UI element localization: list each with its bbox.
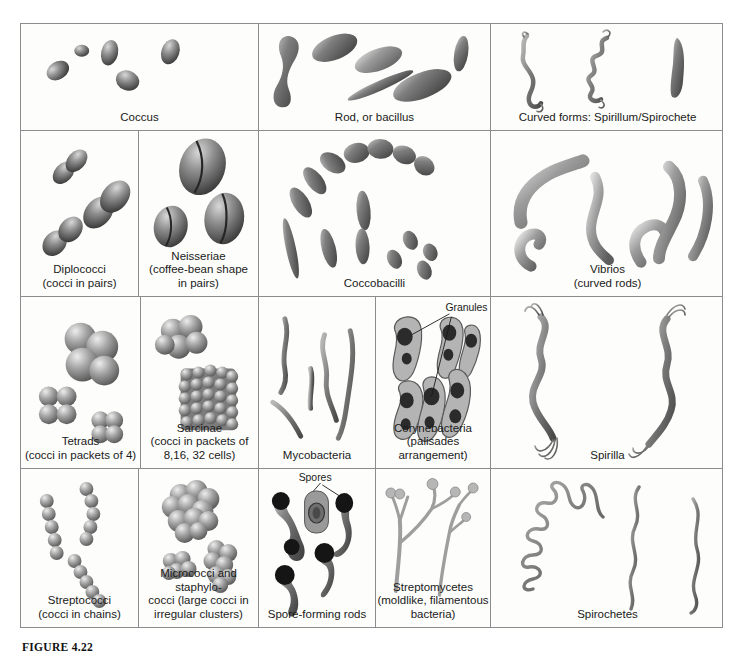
- cell-streptococci: Streptococci (cocci in chains): [21, 469, 139, 627]
- cell-spirilla: Spirilla: [491, 297, 724, 468]
- cell-label-tetrads: Tetrads (cocci in packets of 4): [21, 435, 140, 468]
- cell-label-coccus: Coccus: [21, 111, 258, 131]
- cell-label-spirochetes: Spirochetes: [491, 608, 724, 628]
- bacterial-shapes-figure: Coccus Rod, or bacill: [0, 0, 744, 656]
- cell-corynebacteria: Granules Corynebacteria (palisades arran…: [376, 297, 491, 468]
- cell-mycobacteria: Mycobacteria: [259, 297, 376, 468]
- cell-curved-forms: Curved forms: Spirillum/Spirochete: [491, 24, 724, 130]
- annotation-granules: Granules: [445, 302, 487, 313]
- cell-coccobacilli: Coccobacilli: [259, 131, 491, 296]
- figure-row-3: Tetrads (cocci in packets of 4): [21, 297, 722, 469]
- cell-label-neisseriae: Neisseriae (coffee-bean shape in pairs): [139, 250, 258, 297]
- cell-tetrads: Tetrads (cocci in packets of 4): [21, 297, 141, 468]
- mycobacteria-illustration: [259, 297, 375, 468]
- spore-forming-rods-illustration: Spores: [259, 469, 375, 627]
- figure-row-1: Coccus Rod, or bacill: [21, 24, 722, 131]
- cell-micrococci-staphylococci: Micrococci and staphylo- cocci (large co…: [139, 469, 259, 627]
- cell-label-streptomycetes: Streptomycetes (moldlike, filamentous ba…: [376, 581, 490, 628]
- cell-vibrios: Vibrios (curved rods): [491, 131, 724, 296]
- annotation-spores: Spores: [299, 472, 332, 483]
- spirochetes-illustration: [491, 469, 724, 627]
- cell-label-corynebacteria: Corynebacteria (palisades arrangement): [376, 422, 490, 469]
- cell-rod-bacillus: Rod, or bacillus: [259, 24, 491, 130]
- spirilla-illustration: [491, 297, 724, 468]
- figure-caption: FIGURE 4.22: [22, 641, 93, 653]
- cell-label-curved-forms: Curved forms: Spirillum/Spirochete: [491, 111, 724, 131]
- cell-label-vibrios: Vibrios (curved rods): [491, 263, 724, 296]
- coccobacilli-illustration: [259, 131, 490, 296]
- figure-row-2: Diplococci (cocci in pairs): [21, 131, 722, 297]
- cell-label-micrococci-staphylococci: Micrococci and staphylo- cocci (large co…: [139, 567, 258, 627]
- cell-diplococci: Diplococci (cocci in pairs): [21, 131, 139, 296]
- cell-label-diplococci: Diplococci (cocci in pairs): [21, 263, 138, 296]
- cell-coccus: Coccus: [21, 24, 259, 130]
- cell-neisseriae: Neisseriae (coffee-bean shape in pairs): [139, 131, 259, 296]
- cell-label-coccobacilli: Coccobacilli: [259, 277, 490, 297]
- cell-streptomycetes: Streptomycetes (moldlike, filamentous ba…: [376, 469, 491, 627]
- cell-sarcinae: Sarcinae (cocci in packets of 8,16, 32 c…: [141, 297, 259, 468]
- figure-row-4: Streptococci (cocci in chains): [21, 469, 722, 627]
- cell-label-spore-forming-rods: Spore-forming rods: [259, 608, 375, 628]
- cell-spore-forming-rods: Spores Spore-forming rods: [259, 469, 376, 627]
- cell-label-spirilla: Spirilla: [491, 449, 724, 469]
- figure-table: Coccus Rod, or bacill: [20, 23, 723, 628]
- cell-label-sarcinae: Sarcinae (cocci in packets of 8,16, 32 c…: [141, 422, 258, 469]
- cell-spirochetes: Spirochetes: [491, 469, 724, 627]
- cell-label-mycobacteria: Mycobacteria: [259, 449, 375, 469]
- cell-label-rod-bacillus: Rod, or bacillus: [259, 111, 490, 131]
- cell-label-streptococci: Streptococci (cocci in chains): [21, 594, 138, 627]
